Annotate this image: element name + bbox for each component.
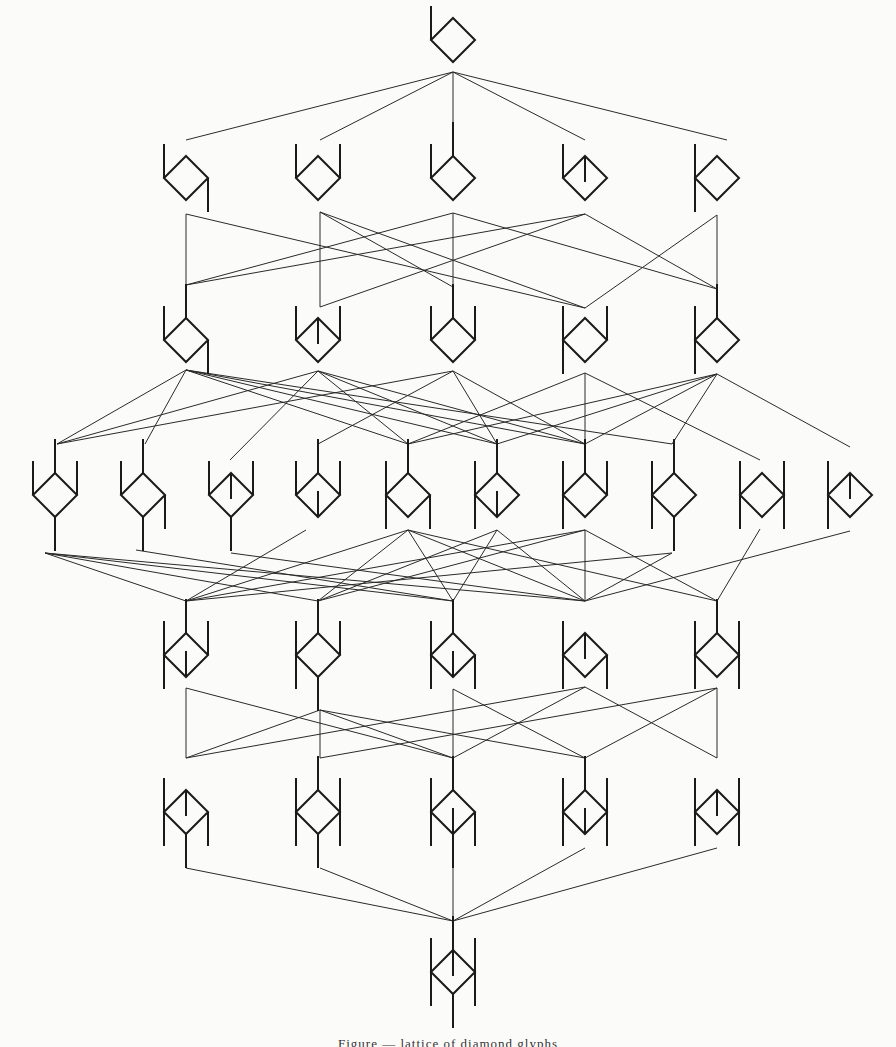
edge-line — [672, 374, 717, 444]
diamond-glyph-node — [563, 621, 607, 689]
edge-line — [186, 370, 408, 444]
edge-line — [453, 848, 717, 921]
lattice-diagram: Figure — lattice of diamond glyphs — [0, 0, 896, 1047]
diamond-icon — [296, 633, 340, 677]
diamond-glyph-node — [296, 756, 340, 868]
edge-line — [57, 371, 453, 444]
diamond-icon — [431, 18, 475, 62]
edge-line — [453, 72, 585, 140]
diamond-glyph-node — [431, 916, 475, 1028]
diamond-glyph-node — [431, 756, 475, 868]
edge-line — [453, 848, 585, 921]
edge-line — [186, 710, 320, 758]
diamond-icon — [695, 633, 739, 677]
diamond-glyph-node — [740, 461, 784, 529]
diamond-icon — [296, 790, 340, 834]
diamond-glyph-node — [296, 599, 340, 711]
diamond-glyph-node — [33, 439, 77, 551]
diamond-glyph-node — [652, 439, 696, 551]
edge-line — [585, 373, 760, 460]
diamond-icon — [33, 473, 77, 517]
edge-line — [453, 530, 497, 601]
diamond-glyph-node — [164, 144, 208, 212]
edge-line — [186, 214, 585, 308]
edge-line — [320, 710, 453, 758]
diamond-glyph-node — [563, 439, 607, 529]
diamond-icon — [164, 156, 208, 200]
diamond-glyph-node — [209, 461, 253, 551]
edge-line — [717, 374, 850, 447]
diamond-icon — [563, 473, 607, 517]
diamond-icon — [431, 318, 475, 362]
edge-line — [186, 214, 585, 285]
diamond-glyph-node — [695, 599, 739, 689]
edge-line — [585, 215, 717, 308]
lattice-canvas — [0, 0, 896, 1047]
diamond-glyph-node — [164, 599, 208, 689]
diamond-icon — [121, 473, 165, 517]
edge-line — [408, 530, 717, 601]
edge-line — [320, 72, 453, 140]
edge-line — [585, 214, 717, 289]
diamond-glyph-node — [563, 306, 607, 374]
edge-line — [45, 553, 453, 601]
diamond-glyph-node — [475, 439, 519, 529]
diamond-glyph-node — [386, 439, 430, 529]
edge-line — [320, 868, 453, 921]
diamond-glyph-node — [431, 122, 475, 200]
edge-line — [453, 371, 497, 444]
diamond-icon — [431, 156, 475, 200]
diamond-icon — [740, 473, 784, 517]
diamond-icon — [695, 318, 739, 362]
edge-line — [408, 373, 585, 444]
diamond-icon — [386, 473, 430, 517]
edge-line — [186, 553, 672, 601]
diamond-icon — [164, 318, 208, 362]
edge-line — [230, 371, 318, 460]
diamond-glyph-node — [121, 439, 165, 551]
edge-line — [45, 553, 186, 601]
figure-caption: Figure — lattice of diamond glyphs — [0, 1036, 896, 1047]
edge-line — [136, 550, 453, 601]
diamond-glyph-node — [431, 599, 475, 689]
diamond-glyph-node — [695, 284, 739, 374]
diamond-glyph-node — [431, 284, 475, 362]
edge-line — [497, 374, 717, 444]
edge-line — [145, 370, 186, 444]
edge-line — [453, 72, 727, 140]
edge-line — [585, 374, 717, 444]
edge-line — [186, 72, 453, 140]
edge-line — [57, 370, 186, 444]
diamond-glyph-node — [563, 756, 607, 846]
diamond-glyph-node — [695, 144, 739, 212]
diamond-glyph-node — [563, 144, 607, 200]
edge-line — [186, 868, 453, 921]
diamond-icon — [296, 156, 340, 200]
diamond-glyph-node — [296, 306, 340, 362]
diamond-glyph-node — [828, 461, 872, 529]
edge-line — [717, 529, 760, 601]
diamond-glyph-node — [296, 439, 340, 517]
diamond-glyph-node — [164, 778, 208, 868]
edge-line — [585, 531, 850, 601]
diamond-glyph-node — [164, 284, 208, 374]
diamond-icon — [563, 318, 607, 362]
edge-line — [45, 553, 318, 601]
edge-line — [408, 374, 717, 444]
diamond-glyph-node — [431, 6, 475, 62]
edge-line — [453, 371, 585, 444]
edge-line — [408, 530, 453, 601]
diamond-glyph-node — [695, 778, 739, 846]
diamond-glyph-node — [296, 144, 340, 200]
edge-line — [57, 371, 318, 444]
diamond-icon — [652, 473, 696, 517]
edge-line — [408, 530, 585, 601]
edge-line — [453, 213, 717, 289]
diamond-icon — [695, 156, 739, 200]
